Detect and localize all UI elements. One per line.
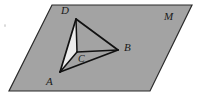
edge-cd [76,19,77,52]
plane-label-m: M [164,11,173,22]
vertex-label-b: B [124,42,131,53]
vertex-label-d: D [61,5,69,16]
geometry-figure: D A B C M [0,0,197,102]
vertex-label-c: C [78,53,85,64]
vertex-label-a: A [46,76,53,87]
scan-speck [4,24,6,27]
